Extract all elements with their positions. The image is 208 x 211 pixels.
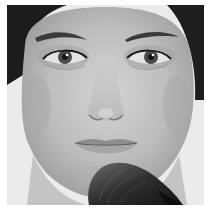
portrait-photo — [7, 5, 204, 205]
face-illustration — [7, 5, 204, 205]
